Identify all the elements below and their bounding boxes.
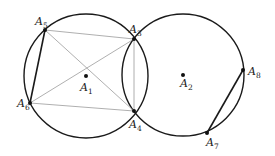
segment-a5-a4 (45, 30, 134, 111)
label-a4: A4 (128, 118, 142, 133)
label-a3: A3 (128, 23, 142, 38)
label-a8: A8 (247, 65, 261, 80)
label-a2: A2 (179, 77, 193, 92)
segment-a6-a4 (30, 103, 134, 111)
point-a8 (241, 68, 245, 72)
label-a1: A1 (79, 81, 93, 96)
geometry-diagram: A1A2A3A4A5A6A7A8 (0, 0, 275, 156)
point-a3 (132, 37, 136, 41)
segment-a5-a3 (45, 30, 134, 39)
point-a4 (132, 109, 136, 113)
label-a5: A5 (34, 15, 48, 30)
label-a7: A7 (205, 136, 219, 151)
point-a1 (84, 74, 88, 78)
thin-chords-group (30, 30, 134, 111)
chord-a5-a6 (30, 30, 45, 103)
point-a7 (205, 131, 209, 135)
labels-group: A1A2A3A4A5A6A7A8 (16, 15, 261, 151)
